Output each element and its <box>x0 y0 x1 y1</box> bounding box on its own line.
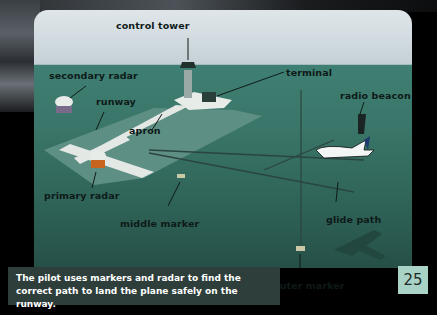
label-runway: runway <box>96 96 136 107</box>
label-glide-path: glide path <box>326 214 381 225</box>
page-number: 25 <box>398 266 428 294</box>
caption-box: The pilot uses markers and radar to find… <box>8 267 280 305</box>
control-tower-cab <box>180 62 196 68</box>
airplane-shadow <box>334 230 386 260</box>
label-radio-beacon: radio beacon <box>340 90 411 101</box>
caption-text: The pilot uses markers and radar to find… <box>16 273 241 309</box>
label-primary-radar: primary radar <box>44 190 120 201</box>
label-middle-marker: middle marker <box>120 218 199 229</box>
secondary-radar-base <box>56 106 72 113</box>
label-outer-marker: outer marker <box>273 280 345 291</box>
terminal-building <box>202 92 216 102</box>
outer-marker-shape <box>296 246 305 251</box>
radio-beacon-shape <box>358 114 366 134</box>
label-secondary-radar: secondary radar <box>49 70 138 81</box>
label-control-tower: control tower <box>116 20 190 31</box>
airport-diagram-panel: control tower secondary radar terminal r… <box>34 10 412 268</box>
label-terminal: terminal <box>286 67 332 78</box>
label-apron: apron <box>129 125 161 136</box>
control-tower-shaft <box>184 70 192 98</box>
primary-radar-base <box>91 160 105 168</box>
middle-marker-shape <box>177 174 185 178</box>
airport-scene <box>34 10 412 268</box>
